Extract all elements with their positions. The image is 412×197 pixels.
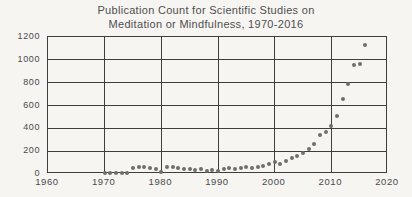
x-tick-label: 1980 [140,177,180,187]
data-point [301,151,305,155]
data-point [210,168,214,172]
y-tick-label: 1200 [0,32,40,41]
gridline-horizontal [48,105,386,106]
y-tick-label: 1000 [0,54,40,63]
data-point [278,162,282,166]
data-point [227,166,231,170]
data-point [324,130,328,134]
data-point [273,160,277,164]
y-tick-label: 400 [0,123,40,132]
chart-title: Publication Count for Scientific Studies… [0,3,412,31]
data-point [312,142,316,146]
data-point [216,169,220,173]
data-point [290,156,294,160]
data-point [256,165,260,169]
data-point [239,166,243,170]
data-point [358,62,362,66]
data-point [250,166,254,170]
data-point [261,164,265,168]
data-point [318,133,322,137]
y-tick-label: 800 [0,77,40,86]
data-point [341,97,345,101]
gridline-horizontal [48,82,386,83]
data-point [188,167,192,171]
x-tick-label: 1960 [27,177,67,187]
data-point [159,170,163,174]
data-point [363,43,367,47]
data-point [222,167,226,171]
x-tick-label: 2020 [367,177,407,187]
data-point [346,82,350,86]
y-tick-label: 200 [0,146,40,155]
data-point [233,167,237,171]
data-point [154,167,158,171]
data-point [120,171,124,175]
data-point [131,166,135,170]
gridline-horizontal [48,151,386,152]
data-point [125,171,129,175]
data-point [205,169,209,173]
gridline-horizontal [48,59,386,60]
data-point [199,167,203,171]
chart-title-line1: Publication Count for Scientific Studies… [0,3,412,17]
x-tick-label: 2010 [310,177,350,187]
data-point [165,165,169,169]
data-point [295,154,299,158]
data-point [103,171,107,175]
data-point [148,166,152,170]
data-point [182,167,186,171]
data-point [171,165,175,169]
data-point [244,165,248,169]
data-point [284,159,288,163]
x-tick-label: 1990 [197,177,237,187]
data-point [335,114,339,118]
gridline-horizontal [48,128,386,129]
data-point [108,171,112,175]
data-point [329,124,333,128]
data-point [176,166,180,170]
chart: Publication Count for Scientific Studies… [0,0,412,197]
x-tick-label: 1970 [84,177,124,187]
data-point [137,165,141,169]
data-point [352,63,356,67]
data-point [114,171,118,175]
x-tick-label: 2000 [254,177,294,187]
y-tick-label: 600 [0,100,40,109]
data-point [193,168,197,172]
data-point [142,165,146,169]
data-point [307,147,311,151]
data-point [267,162,271,166]
plot-area [47,36,387,173]
y-tick-label: 0 [0,169,40,178]
chart-title-line2: Meditation or Mindfulness, 1970-2016 [0,17,412,31]
